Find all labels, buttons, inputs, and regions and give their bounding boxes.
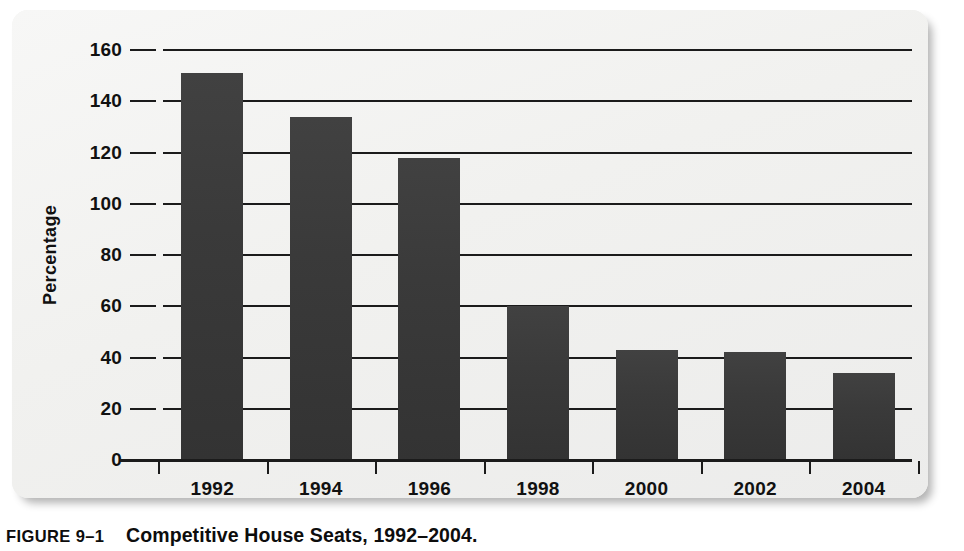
- y-axis-title: Percentage: [40, 205, 61, 305]
- y-axis-label: 80: [100, 244, 122, 266]
- x-axis-tick: [267, 461, 269, 474]
- bar-2004: [833, 373, 895, 460]
- figure-number: FIGURE 9–1: [6, 527, 104, 545]
- y-axis-tick: [130, 152, 156, 154]
- y-axis-label: 40: [100, 347, 122, 369]
- x-axis-label-1998: 1998: [483, 478, 593, 500]
- x-axis-label-1996: 1996: [374, 478, 484, 500]
- y-axis-label: 120: [90, 142, 122, 164]
- gridline: [163, 203, 912, 205]
- x-axis-label-1992: 1992: [157, 478, 267, 500]
- x-axis-label-2000: 2000: [592, 478, 702, 500]
- gridline: [163, 254, 912, 256]
- bar-1992: [181, 73, 243, 460]
- bar-1994: [290, 117, 352, 460]
- y-axis-tick: [130, 305, 156, 307]
- x-axis-line: [120, 459, 912, 462]
- x-axis-label-2004: 2004: [809, 478, 919, 500]
- y-axis-tick: [130, 100, 156, 102]
- x-axis-tick: [375, 461, 377, 474]
- y-axis-tick: [130, 203, 156, 205]
- x-axis-tick: [809, 461, 811, 474]
- x-axis-tick: [158, 461, 160, 474]
- y-axis-label: 140: [90, 90, 122, 112]
- y-axis-tick: [130, 408, 156, 410]
- gridline: [163, 100, 912, 102]
- x-axis-tick: [592, 461, 594, 474]
- x-axis-tick: [701, 461, 703, 474]
- gridline: [163, 49, 912, 51]
- x-axis-label-1994: 1994: [266, 478, 376, 500]
- bar-2002: [724, 352, 786, 460]
- x-axis-tick: [918, 461, 920, 474]
- y-axis-label: 20: [100, 398, 122, 420]
- plot-area: 020406080100120140160 199219941996199820…: [152, 50, 912, 460]
- x-axis-tick: [484, 461, 486, 474]
- figure-caption: FIGURE 9–1 Competitive House Seats, 1992…: [6, 524, 477, 547]
- y-axis-label: 100: [90, 193, 122, 215]
- y-axis-label: 60: [100, 295, 122, 317]
- y-axis-tick: [130, 49, 156, 51]
- y-axis-tick: [130, 254, 156, 256]
- figure-panel: Percentage 020406080100120140160 1992199…: [12, 10, 928, 498]
- bar-2000: [616, 350, 678, 460]
- x-axis-label-2002: 2002: [700, 478, 810, 500]
- gridline: [163, 152, 912, 154]
- y-axis-tick: [130, 357, 156, 359]
- y-axis-label: 160: [90, 39, 122, 61]
- figure-title: Competitive House Seats, 1992–2004.: [126, 524, 477, 546]
- bar-1996: [398, 158, 460, 460]
- bar-1998: [507, 306, 569, 460]
